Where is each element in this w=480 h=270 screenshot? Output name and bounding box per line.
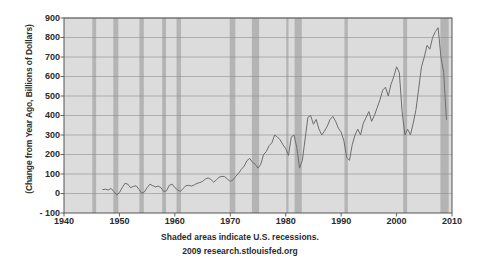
y-tick-label: 600 — [26, 72, 60, 81]
y-axis-tick-labels: - 1000100200300400500600700800900 — [24, 0, 60, 270]
chart-svg — [0, 0, 480, 270]
y-tick-label: 0 — [26, 189, 60, 198]
y-tick-label: 700 — [26, 53, 60, 62]
x-tick-label: 1940 — [44, 216, 84, 226]
y-tick-label: 400 — [26, 111, 60, 120]
x-tick-label: 2000 — [377, 216, 417, 226]
x-tick-label: 2010 — [432, 216, 472, 226]
x-tick-label: 1950 — [99, 216, 139, 226]
recession-caption: Shaded areas indicate U.S. recessions. — [0, 232, 480, 242]
y-tick-label: 300 — [26, 131, 60, 140]
y-tick-label: 800 — [26, 33, 60, 42]
x-tick-label: 1990 — [321, 216, 361, 226]
x-tick-label: 1970 — [210, 216, 250, 226]
y-tick-label: 500 — [26, 92, 60, 101]
y-tick-label: 200 — [26, 150, 60, 159]
y-tick-label: 900 — [26, 14, 60, 23]
x-tick-label: 1980 — [266, 216, 306, 226]
x-tick-label: 1960 — [155, 216, 195, 226]
source-caption: 2009 research.stlouisfed.org — [0, 246, 480, 256]
y-tick-label: 100 — [26, 170, 60, 179]
